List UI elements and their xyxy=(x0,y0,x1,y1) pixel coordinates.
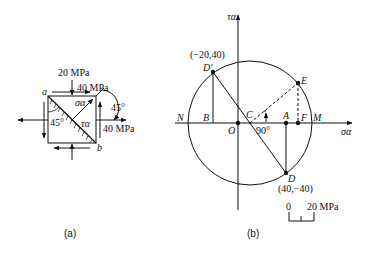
line-c-e xyxy=(250,83,298,123)
right-stress-label: 40 MPa xyxy=(103,123,135,134)
label-f: F xyxy=(300,112,308,123)
point-o xyxy=(236,121,240,125)
coord-d: (40,−40) xyxy=(278,183,313,195)
tau-axis-label: τα xyxy=(227,11,237,22)
label-d-prime: D′ xyxy=(202,62,213,73)
mohr-circle-figure: 20 MPa 40 MPa a b 45° 45° 40 MPa σα τα (… xyxy=(0,0,368,257)
figure-b-labels: τα σα (−20,40) D′ E N B C A F M O 90° D … xyxy=(176,11,352,239)
top-stress-label: 20 MPa xyxy=(58,67,90,78)
label-b: B xyxy=(203,112,209,123)
figure-a-labels: 20 MPa 40 MPa a b 45° 45° 40 MPa σα τα (… xyxy=(42,67,135,239)
point-a xyxy=(284,121,288,125)
scale-zero-label: 0 xyxy=(286,201,291,212)
stress-element xyxy=(18,80,126,160)
label-m: M xyxy=(312,112,322,123)
scale-value-label: 20 MPa xyxy=(307,201,339,212)
tau-alpha-label: τα xyxy=(81,118,91,129)
label-a: A xyxy=(282,110,290,121)
tau-alpha-arrow xyxy=(63,111,80,128)
angle-arc-inside xyxy=(48,107,59,112)
corner-a-label: a xyxy=(42,86,47,97)
sigma-axis-label: σα xyxy=(341,126,352,137)
label-e: E xyxy=(300,75,307,86)
coord-d-prime: (−20,40) xyxy=(190,49,225,61)
angle-right-label: 45° xyxy=(111,102,125,113)
label-n: N xyxy=(176,112,185,123)
point-f xyxy=(296,121,300,125)
caption-b: (b) xyxy=(247,228,259,239)
point-e xyxy=(296,81,300,85)
corner-b-label: b xyxy=(97,142,102,153)
label-c: C xyxy=(246,109,253,120)
angle-90-label: 90° xyxy=(256,125,270,136)
sigma-alpha-label: σα xyxy=(75,97,86,108)
mohr-circle-plot xyxy=(175,15,352,221)
label-o: O xyxy=(228,125,235,136)
shear-stress-label: 40 MPa xyxy=(77,82,109,93)
angle-inside-label: 45° xyxy=(50,117,64,128)
caption-a: (a) xyxy=(64,228,76,239)
